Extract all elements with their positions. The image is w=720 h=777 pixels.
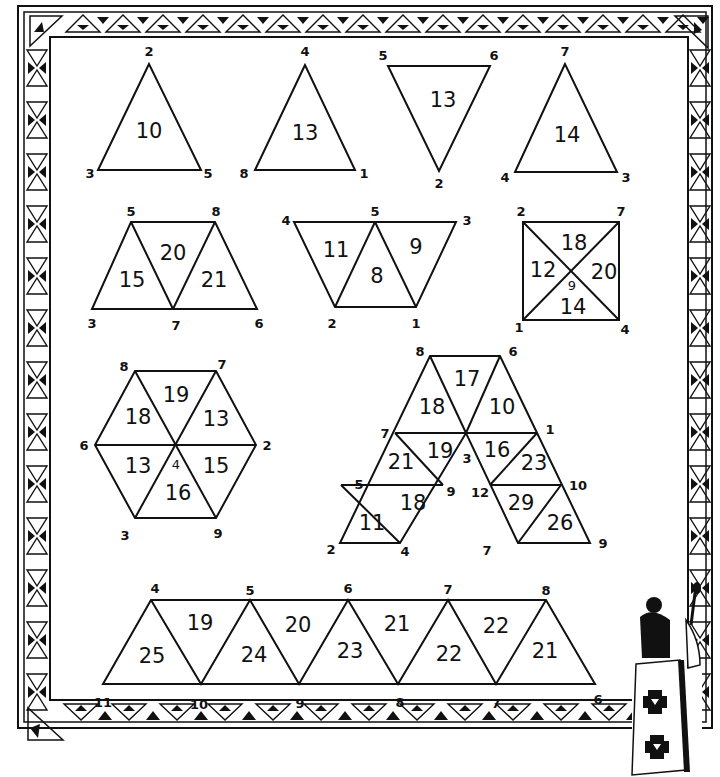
vertex-label: 1 <box>514 320 523 335</box>
vertex-label: 12 <box>471 485 489 500</box>
sum-label: 21 <box>201 268 228 292</box>
vertex-label: 4 <box>620 322 629 337</box>
triangle-puzzle-c: 5 6 2 13 <box>378 48 498 191</box>
sum-label: 18 <box>419 395 446 419</box>
sum-label: 14 <box>554 123 581 147</box>
vertex-label: 4 <box>150 581 159 596</box>
sum-label: 21 <box>532 639 559 663</box>
center-label: 4 <box>172 457 180 472</box>
border-top-pattern <box>66 15 709 32</box>
vertex-label: 8 <box>415 344 424 359</box>
sum-label: 9 <box>409 235 422 259</box>
painter-figure-icon <box>632 582 702 777</box>
vertex-label: 7 <box>491 696 500 711</box>
a-shape-puzzle: 8 6 7 3 1 5 9 12 10 2 4 7 9 18 17 10 21 … <box>326 344 607 559</box>
vertex-label: 8 <box>239 166 248 181</box>
vertex-label: 8 <box>395 695 404 710</box>
sum-label: 22 <box>483 614 510 638</box>
vertex-label: 7 <box>443 582 452 597</box>
vertex-label: 8 <box>211 204 220 219</box>
sum-label: 10 <box>489 395 516 419</box>
sum-label: 15 <box>203 454 230 478</box>
vertex-label: 8 <box>541 583 550 598</box>
strip-puzzle: 4 5 6 7 8 11 10 9 8 7 6 25 24 23 22 21 1… <box>94 581 603 712</box>
vertex-label: 2 <box>516 204 525 219</box>
vertex-label: 7 <box>616 204 625 219</box>
sum-label: 14 <box>560 295 587 319</box>
border-left-pattern <box>27 50 47 710</box>
vertex-label: 3 <box>462 451 471 466</box>
sum-label: 26 <box>547 511 574 535</box>
vertex-label: 3 <box>85 166 94 181</box>
sum-label: 24 <box>241 643 268 667</box>
sum-label: 19 <box>427 439 454 463</box>
sum-label: 18 <box>400 491 427 515</box>
vertex-label: 7 <box>380 426 389 441</box>
sum-label: 16 <box>165 481 192 505</box>
sum-label: 13 <box>203 407 230 431</box>
vertex-label: 5 <box>203 166 212 181</box>
vertex-label: 10 <box>190 697 208 712</box>
vertex-label: 6 <box>489 48 498 63</box>
sum-label: 12 <box>530 258 557 282</box>
vertex-label: 8 <box>119 359 128 374</box>
vertex-label: 1 <box>545 422 554 437</box>
vertex-label: 3 <box>621 170 630 185</box>
hexagon-puzzle: 8 7 2 9 3 6 4 19 13 15 16 13 18 <box>79 357 271 543</box>
sum-label: 19 <box>187 611 214 635</box>
trapezoid-puzzle-a: 5 8 3 7 6 15 20 21 <box>87 204 263 333</box>
vertex-label: 9 <box>446 484 455 499</box>
vertex-label: 4 <box>281 213 290 228</box>
center-label: 9 <box>568 278 576 293</box>
sum-label: 20 <box>591 260 618 284</box>
vertex-label: 6 <box>79 438 88 453</box>
vertex-label: 9 <box>598 536 607 551</box>
sum-label: 21 <box>388 450 415 474</box>
vertex-label: 4 <box>300 44 309 59</box>
vertex-label: 1 <box>411 316 420 331</box>
sum-label: 18 <box>561 231 588 255</box>
puzzle-page: 2 3 5 10 4 8 1 13 5 6 2 13 7 4 3 14 5 8 … <box>0 0 720 777</box>
vertex-label: 5 <box>245 583 254 598</box>
triangle-puzzle-d: 7 4 3 14 <box>500 44 630 185</box>
vertex-label: 9 <box>213 526 222 541</box>
vertex-label: 2 <box>327 316 336 331</box>
sum-label: 23 <box>521 451 548 475</box>
vertex-label: 6 <box>343 581 352 596</box>
corner-triangle-icon <box>30 16 62 46</box>
vertex-label: 5 <box>126 204 135 219</box>
triangle-puzzle-a: 2 3 5 10 <box>85 44 212 181</box>
vertex-label: 11 <box>94 695 112 710</box>
sum-label: 13 <box>292 121 319 145</box>
vertex-label: 2 <box>434 176 443 191</box>
vertex-label: 2 <box>144 44 153 59</box>
puzzle-canvas: 2 3 5 10 4 8 1 13 5 6 2 13 7 4 3 14 5 8 … <box>0 0 720 777</box>
square-puzzle: 2 7 1 4 9 18 12 20 14 <box>514 204 629 337</box>
sum-label: 10 <box>136 119 163 143</box>
vertex-label: 7 <box>171 318 180 333</box>
vertex-label: 6 <box>254 316 263 331</box>
vertex-label: 9 <box>295 696 304 711</box>
corner-triangle-icon <box>28 708 63 740</box>
vertex-label: 7 <box>482 543 491 558</box>
sum-label: 19 <box>163 383 190 407</box>
vertex-label: 2 <box>326 542 335 557</box>
sum-label: 23 <box>337 639 364 663</box>
sum-label: 16 <box>484 438 511 462</box>
sum-label: 13 <box>125 454 152 478</box>
vertex-label: 6 <box>508 344 517 359</box>
sum-label: 22 <box>436 642 463 666</box>
vertex-label: 3 <box>120 528 129 543</box>
sum-label: 25 <box>139 644 166 668</box>
vertex-label: 2 <box>262 438 271 453</box>
trapezoid-puzzle-b: 4 5 3 2 1 11 8 9 <box>281 204 471 331</box>
sum-label: 11 <box>323 238 350 262</box>
vertex-label: 1 <box>359 166 368 181</box>
sum-label: 29 <box>508 491 535 515</box>
vertex-label: 5 <box>370 204 379 219</box>
sum-label: 20 <box>285 613 312 637</box>
vertex-label: 3 <box>87 316 96 331</box>
triangle-puzzle-b: 4 8 1 13 <box>239 44 368 181</box>
sum-label: 13 <box>430 88 457 112</box>
vertex-label: 7 <box>217 357 226 372</box>
